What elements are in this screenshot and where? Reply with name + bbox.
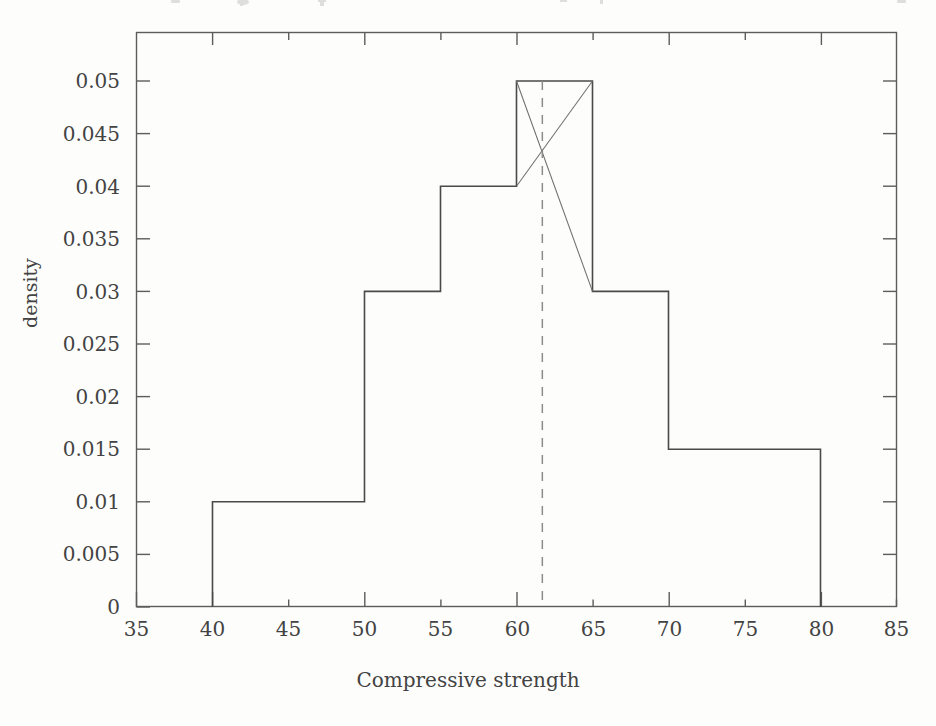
y-axis-ticks-left xyxy=(137,81,151,607)
x-tick-label-0: 35 xyxy=(106,619,167,639)
y-tick-label-3: 0.015 xyxy=(30,439,120,459)
y-tick-label-9: 0.045 xyxy=(30,124,120,144)
y-axis-ticks-right xyxy=(883,81,897,554)
y-tick-label-6: 0.03 xyxy=(30,282,120,302)
x-tick-label-4: 55 xyxy=(410,619,471,639)
histogram-figure: 0 0.005 0.01 0.015 0.02 0.025 0.03 0.035… xyxy=(0,0,936,726)
x-tick-label-8: 75 xyxy=(715,619,776,639)
y-tick-label-4: 0.02 xyxy=(30,387,120,407)
y-tick-label-10: 0.05 xyxy=(30,71,120,91)
x-tick-label-7: 70 xyxy=(639,619,700,639)
y-tick-label-0: 0 xyxy=(30,597,120,617)
x-axis-ticks-top xyxy=(213,33,822,46)
mode-construction-line-right xyxy=(517,81,593,186)
x-tick-label-9: 80 xyxy=(791,619,852,639)
x-tick-label-2: 45 xyxy=(258,619,319,639)
x-axis-title: Compressive strength xyxy=(0,668,936,692)
y-tick-label-5: 0.025 xyxy=(30,334,120,354)
x-tick-label-10: 85 xyxy=(866,619,927,639)
y-tick-label-7: 0.035 xyxy=(30,229,120,249)
x-tick-label-1: 40 xyxy=(182,619,243,639)
x-tick-label-6: 65 xyxy=(563,619,624,639)
x-axis-ticks-bottom xyxy=(137,592,897,607)
y-axis-title: density xyxy=(19,284,41,328)
histogram-bars xyxy=(213,81,821,607)
y-tick-label-1: 0.005 xyxy=(30,544,120,564)
y-tick-label-2: 0.01 xyxy=(30,492,120,512)
x-tick-label-3: 50 xyxy=(334,619,395,639)
x-tick-label-5: 60 xyxy=(487,619,548,639)
mode-construction-line-left xyxy=(517,81,593,291)
y-tick-label-8: 0.04 xyxy=(30,177,120,197)
